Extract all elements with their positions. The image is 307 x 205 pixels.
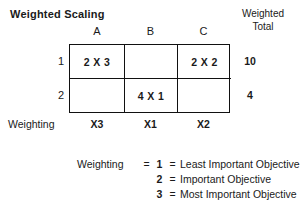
weighted-scaling-figure: Weighted Scaling Weighted Total A B C 1 … [0,0,307,205]
weighting-value-b: X1 [124,118,177,130]
weighting-legend: Weighting = 1 = Least Important Objectiv… [77,157,300,202]
weighted-total-line1: Weighted [232,7,294,20]
weighting-value-c: X2 [177,118,230,130]
table-cell-r2-c [178,79,231,113]
column-header-a: A [70,25,124,37]
legend-number-2: 2 [154,172,165,187]
column-header-b: B [124,25,177,37]
legend-row-3: 3 = Most Important Objective [77,187,300,202]
figure-title: Weighted Scaling [10,8,105,20]
legend-equals-2: = [165,172,180,187]
legend-row-1: Weighting = 1 = Least Important Objectiv… [77,157,300,172]
weighted-total-header: Weighted Total [232,7,294,33]
legend-number-1: 1 [154,157,165,172]
table-cell-r1-b [125,45,178,79]
table-cell-r1-c: 2 X 2 [178,45,231,79]
legend-text-3: Most Important Objective [180,187,297,202]
table-cell-r1-a: 2 X 3 [70,45,125,79]
weighted-total-row-2: 4 [236,89,264,101]
column-header-c: C [177,25,230,37]
weighted-total-row-1: 10 [236,55,264,67]
weighting-value-a: X3 [70,118,124,130]
row-label-1: 1 [44,55,64,67]
legend-row-2: 2 = Important Objective [77,172,300,187]
legend-equals-1: = [165,157,180,172]
weighting-row-label: Weighting [8,118,55,130]
table-cell-r2-b: 4 X 1 [125,79,178,113]
row-label-2: 2 [44,89,64,101]
table-cell-r2-a [70,79,125,113]
legend-prefix: Weighting [77,157,139,172]
legend-equals-3: = [165,187,180,202]
legend-number-3: 3 [154,187,165,202]
legend-equals-prefix: = [139,157,154,172]
legend-text-2: Important Objective [180,172,271,187]
weighted-scaling-table: 2 X 3 2 X 2 4 X 1 [69,44,230,113]
legend-text-1: Least Important Objective [180,157,300,172]
weighted-total-line2: Total [232,20,294,33]
